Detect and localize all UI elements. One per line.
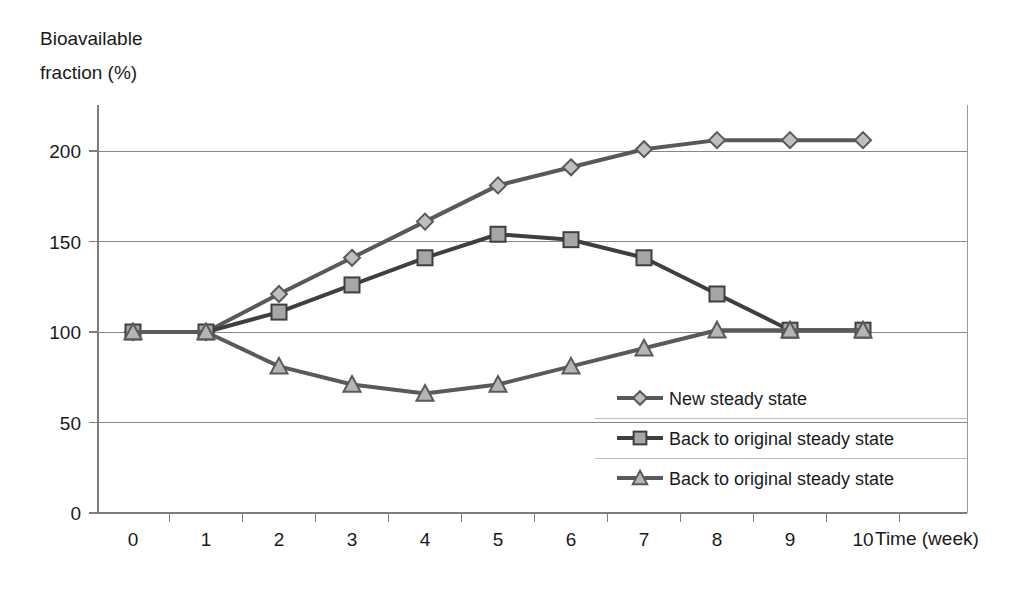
data-point-square-8: [710, 286, 725, 301]
x-tick-label-7: 7: [639, 529, 650, 550]
legend-label-0: New steady state: [669, 389, 807, 409]
x-tick-label-9: 9: [785, 529, 796, 550]
data-point-diamond-7: [636, 141, 652, 157]
data-point-diamond-6: [563, 159, 579, 175]
data-point-square-3: [345, 277, 360, 292]
x-tick-label-6: 6: [566, 529, 577, 550]
y-tick-label-0: 0: [70, 503, 81, 524]
x-tick-label-2: 2: [274, 529, 285, 550]
data-point-diamond-3: [344, 250, 360, 266]
legend-label-2: Back to original steady state: [669, 469, 894, 489]
data-point-diamond-5: [490, 177, 506, 193]
y-axis-title-line2: fraction (%): [40, 62, 137, 83]
data-point-square-2: [272, 305, 287, 320]
y-tick-label-200: 200: [49, 141, 81, 162]
data-point-square-4: [418, 250, 433, 265]
x-axis-title: Time (week): [875, 528, 979, 549]
x-tick-label-10: 10: [852, 529, 873, 550]
data-point-square-6: [564, 232, 579, 247]
data-point-diamond-10: [855, 132, 871, 148]
data-point-diamond-8: [709, 132, 725, 148]
chart-container: Bioavailable fraction (%) Time (week) 05…: [0, 0, 1033, 596]
x-tick-label-8: 8: [712, 529, 723, 550]
data-point-diamond-9: [782, 132, 798, 148]
y-tick-label-100: 100: [49, 322, 81, 343]
x-tick-label-0: 0: [128, 529, 139, 550]
series-square: [126, 227, 871, 340]
x-tick-label-1: 1: [201, 529, 212, 550]
y-axis-title-line1: Bioavailable: [40, 28, 142, 49]
x-tick-label-5: 5: [493, 529, 504, 550]
legend-marker-diamond: [633, 391, 647, 405]
legend-label-1: Back to original steady state: [669, 429, 894, 449]
x-tick-label-3: 3: [347, 529, 358, 550]
y-tick-label-150: 150: [49, 232, 81, 253]
data-point-diamond-4: [417, 214, 433, 230]
data-point-diamond-2: [271, 286, 287, 302]
chart-legend: New steady stateBack to original steady …: [595, 389, 967, 489]
series-line-square: [133, 234, 863, 332]
y-tick-label-50: 50: [60, 413, 81, 434]
line-chart: Bioavailable fraction (%) Time (week) 05…: [0, 0, 1033, 596]
x-axis-ticks: 012345678910: [128, 513, 900, 550]
data-point-square-5: [491, 227, 506, 242]
data-series-group: [125, 132, 872, 401]
y-axis-ticks: 050100150200: [49, 141, 98, 524]
x-tick-label-4: 4: [420, 529, 431, 550]
data-point-square-7: [637, 250, 652, 265]
legend-marker-square: [634, 432, 647, 445]
